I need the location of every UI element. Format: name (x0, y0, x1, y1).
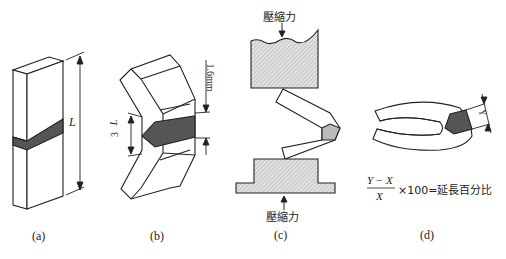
label-thickness-b: 1.6mm (205, 63, 216, 91)
bent-specimen-c (276, 89, 340, 159)
force-label-top: 壓縮力 (263, 8, 296, 24)
press-top-die (251, 30, 318, 88)
caption-d: (d) (420, 228, 434, 243)
caption-c: (c) (274, 228, 287, 243)
formula-rhs: ×100=延長百分比 (398, 181, 492, 197)
force-label-bottom: 壓縮力 (266, 208, 299, 224)
press-bottom-die (236, 159, 335, 193)
specimen-d (373, 102, 472, 150)
label-3-b: 3 (109, 132, 120, 137)
label-L-b: L (108, 120, 119, 126)
formula-numerator: Y − X (367, 174, 393, 186)
arrow-top (279, 23, 285, 37)
caption-b: (b) (150, 229, 164, 244)
label-L-a: L (69, 115, 76, 130)
diagram-canvas (0, 0, 506, 259)
dimension-L3-b (128, 113, 142, 156)
specimen-a (13, 57, 63, 209)
caption-a: (a) (32, 229, 45, 244)
formula-denominator: X (376, 190, 383, 202)
